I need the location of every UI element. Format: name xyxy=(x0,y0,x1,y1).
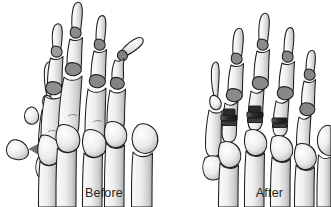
after-fifth-dip-joint xyxy=(304,69,315,80)
cuboid-head xyxy=(132,124,158,154)
after-fourth-dip-joint xyxy=(282,51,293,62)
fourth-dip-joint xyxy=(94,39,105,50)
caption-before: Before xyxy=(0,183,208,203)
after-third-pip-joint xyxy=(252,77,268,90)
joint-implant-4th-ray xyxy=(272,118,287,128)
second-pip-joint xyxy=(46,82,62,95)
after-fourth-pip-joint xyxy=(277,87,293,100)
after-fifth-pip-joint xyxy=(300,103,315,116)
fourth-pip-joint xyxy=(89,75,105,88)
joint-implant-2nd-ray xyxy=(221,109,237,126)
foot-skeleton-illustration xyxy=(0,0,331,207)
after-third-dip-joint xyxy=(257,39,268,50)
third-pip-joint xyxy=(65,63,81,76)
caption-row: Before After xyxy=(0,183,331,203)
fifth-pip-joint xyxy=(110,77,124,89)
after-second-dip-joint xyxy=(231,53,242,64)
after-second-pip-joint xyxy=(226,89,242,102)
bunion-medial-eminence xyxy=(24,107,38,124)
third-dip-joint xyxy=(70,27,81,38)
before-after-figure: Before After xyxy=(0,0,331,207)
joint-implant-3rd-ray xyxy=(247,106,263,123)
caption-after: After xyxy=(208,183,331,203)
second-dip-joint xyxy=(51,46,62,57)
